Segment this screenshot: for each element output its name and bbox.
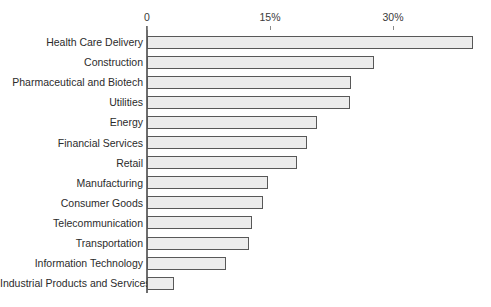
category-label: Health Care Delivery bbox=[0, 35, 143, 50]
bar-row: Financial Services bbox=[0, 136, 491, 151]
bar-row: Retail bbox=[0, 156, 491, 171]
bar-row: Consumer Goods bbox=[0, 196, 491, 211]
bar-row: Industrial Products and Services bbox=[0, 276, 491, 291]
category-label: Information Technology bbox=[0, 256, 143, 271]
category-label: Financial Services bbox=[0, 136, 143, 151]
category-label: Industrial Products and Services bbox=[0, 276, 143, 291]
bar bbox=[147, 136, 307, 149]
category-label: Telecommunication bbox=[0, 216, 143, 231]
bar-rows: Health Care DeliveryConstructionPharmace… bbox=[0, 0, 491, 307]
bar-row: Information Technology bbox=[0, 256, 491, 271]
bar bbox=[147, 176, 268, 189]
bar-row: Telecommunication bbox=[0, 216, 491, 231]
bar-row: Pharmaceutical and Biotech bbox=[0, 75, 491, 90]
category-label: Retail bbox=[0, 156, 143, 171]
bar-row: Construction bbox=[0, 55, 491, 70]
bar-row: Manufacturing bbox=[0, 176, 491, 191]
bar-row: Transportation bbox=[0, 236, 491, 251]
category-label: Manufacturing bbox=[0, 176, 143, 191]
category-label: Pharmaceutical and Biotech bbox=[0, 75, 143, 90]
bar bbox=[147, 196, 263, 209]
bar bbox=[147, 36, 473, 49]
bar-row: Utilities bbox=[0, 95, 491, 110]
bar bbox=[147, 56, 374, 69]
category-label: Transportation bbox=[0, 236, 143, 251]
bar-chart: 015%30% Health Care DeliveryConstruction… bbox=[0, 0, 491, 307]
category-label: Utilities bbox=[0, 95, 143, 110]
bar-row: Energy bbox=[0, 115, 491, 130]
bar bbox=[147, 96, 350, 109]
category-label: Energy bbox=[0, 115, 143, 130]
bar bbox=[147, 216, 252, 229]
bar bbox=[147, 76, 351, 89]
bar bbox=[147, 237, 249, 250]
bar-row: Health Care Delivery bbox=[0, 35, 491, 50]
category-label: Consumer Goods bbox=[0, 196, 143, 211]
category-label: Construction bbox=[0, 55, 143, 70]
bar bbox=[147, 257, 226, 270]
bar bbox=[147, 116, 317, 129]
bar bbox=[147, 277, 174, 290]
bar bbox=[147, 156, 297, 169]
